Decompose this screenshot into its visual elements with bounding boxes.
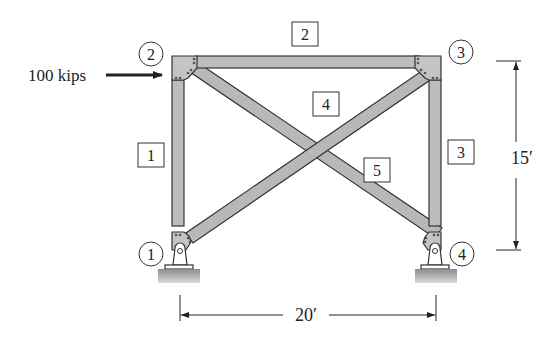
svg-text:3: 3 (457, 44, 465, 61)
svg-text:1: 1 (147, 147, 155, 164)
svg-text:2: 2 (301, 26, 309, 43)
svg-text:5: 5 (373, 162, 381, 179)
svg-text:4: 4 (322, 96, 330, 113)
member-label-3: 3 (448, 140, 474, 164)
svg-text:4: 4 (458, 246, 466, 263)
node-label-2: 2 (139, 42, 163, 66)
node-label-3: 3 (449, 40, 473, 64)
member-3 (429, 80, 441, 226)
member-label-5: 5 (364, 158, 390, 182)
height-dimension: 15′ (496, 61, 533, 250)
node-label-4: 4 (450, 242, 474, 266)
member-1 (172, 80, 184, 226)
svg-text:1: 1 (147, 246, 155, 263)
svg-text:2: 2 (147, 46, 155, 63)
member-label-2: 2 (292, 22, 318, 46)
node-label-1: 1 (139, 242, 163, 266)
member-label-1: 1 (138, 143, 164, 167)
member-2 (196, 56, 420, 68)
truss-diagram: 100 kips 2 3 1 4 1 2 3 4 5 (0, 0, 550, 350)
height-label: 15′ (511, 148, 533, 168)
member-label-4: 4 (313, 92, 339, 116)
width-dimension: 20′ (180, 295, 436, 325)
load-label: 100 kips (28, 66, 86, 85)
width-label: 20′ (295, 305, 317, 325)
load-arrow: 100 kips (28, 66, 162, 85)
pin-support-node-1 (158, 243, 200, 283)
gusset-node-2 (172, 56, 197, 80)
svg-text:3: 3 (457, 144, 465, 161)
